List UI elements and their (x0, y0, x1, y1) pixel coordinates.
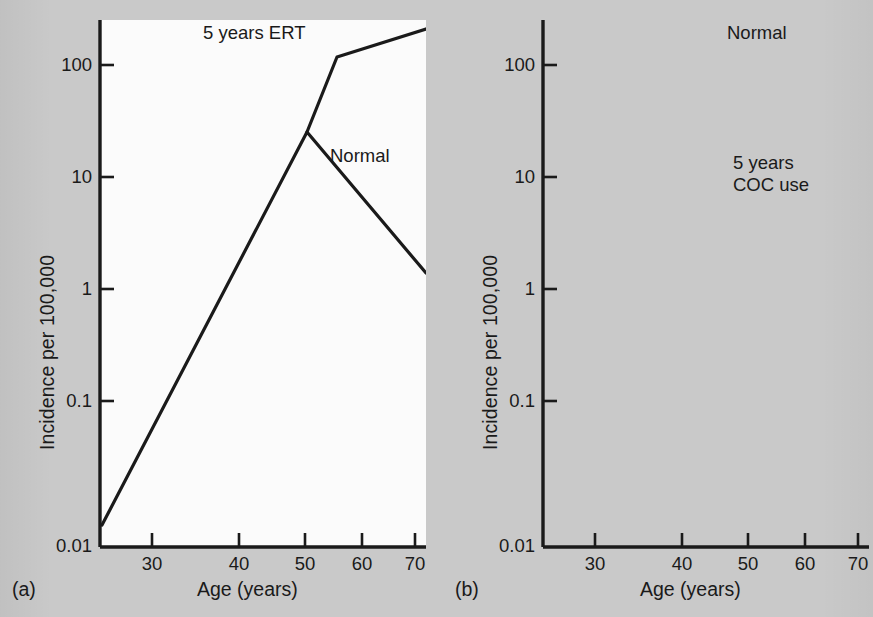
panel-tag-b: (b) (455, 578, 479, 601)
y-tick-label-a-4: 0.01 (24, 535, 92, 557)
label-normal-b: Normal (727, 22, 787, 44)
x-tick-label-b-1: 40 (672, 553, 693, 575)
y-tick-label-a-0: 100 (24, 54, 92, 76)
x-tick-label-b-4: 70 (848, 553, 869, 575)
x-axis-label-a: Age (years) (197, 578, 298, 601)
panel-tag-a: (a) (12, 578, 36, 601)
y-tick-label-b-0: 100 (467, 54, 535, 76)
x-tick-label-a-1: 40 (229, 553, 250, 575)
x-tick-label-a-2: 50 (295, 553, 316, 575)
y-tick-label-a-1: 10 (24, 166, 92, 188)
figure-canvas: 100 10 1 0.1 0.01 30 40 50 60 70 Inciden… (0, 0, 873, 617)
axes-a (0, 0, 437, 617)
x-tick-label-b-0: 30 (585, 553, 606, 575)
x-tick-label-a-4: 70 (405, 553, 426, 575)
x-axis-label-b: Age (years) (640, 578, 741, 601)
label-normal-a: Normal (330, 145, 390, 167)
x-tick-label-b-3: 60 (795, 553, 816, 575)
y-ticks-b (543, 65, 557, 401)
panel-b: 100 10 1 0.1 0.01 30 40 50 60 70 Inciden… (436, 0, 873, 617)
x-tick-label-b-2: 50 (738, 553, 759, 575)
x-tick-label-a-0: 30 (142, 553, 163, 575)
x-ticks-b (595, 533, 858, 547)
label-5-years-ert: 5 years ERT (203, 22, 305, 44)
y-axis-label-a: Incidence per 100,000 (36, 255, 59, 450)
y-ticks-a (100, 65, 114, 401)
y-tick-label-b-4: 0.01 (467, 535, 535, 557)
x-ticks-a (152, 533, 415, 547)
y-axis-label-b: Incidence per 100,000 (479, 255, 502, 450)
panel-a: 100 10 1 0.1 0.01 30 40 50 60 70 Inciden… (0, 0, 437, 617)
y-tick-label-b-1: 10 (467, 166, 535, 188)
x-tick-label-a-3: 60 (352, 553, 373, 575)
label-5-years-coc-use: 5 years COC use (733, 152, 809, 196)
